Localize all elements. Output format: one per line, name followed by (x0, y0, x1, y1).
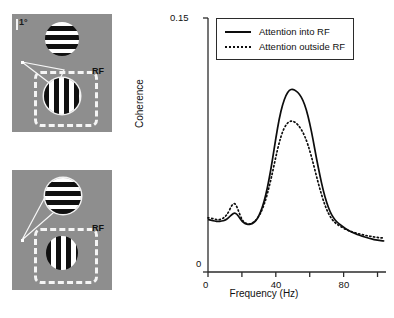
legend-item-attention-into-rf: Attention into RF (223, 24, 345, 39)
series-line-attention-into-rf (208, 89, 384, 241)
grating-vertical-lower (46, 236, 78, 270)
stimulus-panel-attention-into-rf: 1° RF (12, 14, 112, 132)
legend-label: Attention outside RF (259, 41, 345, 52)
legend-solid-line-icon (223, 27, 253, 37)
fixation-dot-icon (21, 239, 24, 242)
legend-dotted-line-icon (223, 42, 253, 52)
chart-legend: Attention into RF Attention outside RF (216, 18, 354, 60)
x-axis-ticks (208, 272, 378, 277)
stimulus-panel-attention-outside-rf: RF (12, 170, 112, 290)
grating-vertical-lower (44, 78, 80, 114)
grating-horizontal-upper (45, 178, 81, 214)
x-axis-title: Frequency (Hz) (138, 288, 390, 299)
coherence-spectrum-chart: 0.15 0 04080 Frequency (Hz) Coherence At… (138, 10, 390, 310)
series-line-attention-outside-rf (208, 121, 384, 238)
rf-label: RF (92, 223, 104, 233)
rf-label: RF (92, 66, 104, 76)
y-tick-label-max: 0.15 (170, 12, 189, 23)
y-axis-ticks (203, 18, 208, 272)
y-tick-label-min: 0 (196, 258, 201, 269)
fixation-dot-icon (21, 61, 24, 64)
y-axis-title: Coherence (134, 79, 145, 128)
legend-item-attention-outside-rf: Attention outside RF (223, 39, 345, 54)
grating-horizontal-upper (45, 22, 79, 56)
legend-label: Attention into RF (259, 26, 330, 37)
